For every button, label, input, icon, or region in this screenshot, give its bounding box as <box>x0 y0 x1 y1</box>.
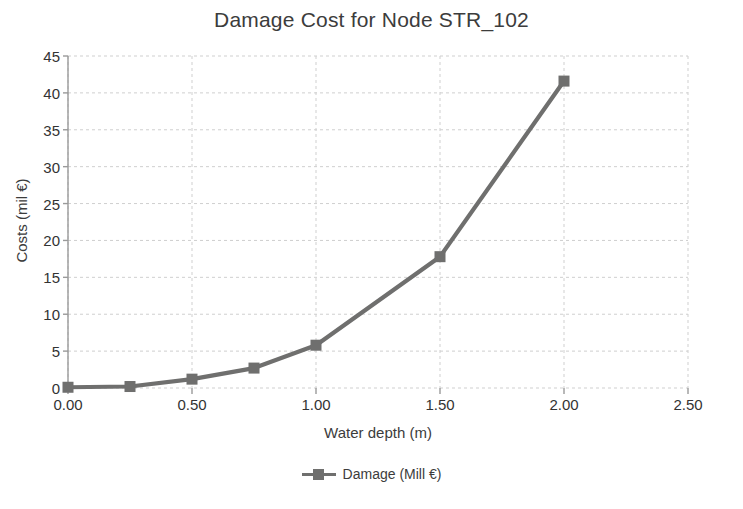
y-axis-tick-label: 15 <box>14 269 60 286</box>
x-axis-tick-label: 1.50 <box>405 396 475 413</box>
y-axis-tick-label: 25 <box>14 195 60 212</box>
data-point-marker <box>63 382 74 393</box>
x-axis-tick-label: 0.00 <box>33 396 103 413</box>
data-point-marker <box>311 340 322 351</box>
y-axis-tick-label: 0 <box>14 380 60 397</box>
y-axis-tick-label: 45 <box>14 48 60 65</box>
chart-container: Damage Cost for Node STR_102 Costs (mil … <box>0 0 743 509</box>
legend-square-marker-icon <box>313 469 324 480</box>
x-axis-tick-label: 0.50 <box>157 396 227 413</box>
x-axis-tick-labels: 0.000.501.001.502.002.50 <box>68 396 688 418</box>
data-point-marker <box>187 374 198 385</box>
y-axis-tick-label: 10 <box>14 306 60 323</box>
y-axis-tick-label: 30 <box>14 158 60 175</box>
data-point-marker <box>125 381 136 392</box>
y-axis-tick-label: 40 <box>14 84 60 101</box>
plot-area <box>68 56 688 388</box>
x-axis-tick-label: 2.50 <box>653 396 723 413</box>
legend-item-label: Damage (Mill €) <box>343 466 442 482</box>
data-point-marker <box>249 363 260 374</box>
x-axis-tick-label: 2.00 <box>529 396 599 413</box>
x-axis-tick-label: 1.00 <box>281 396 351 413</box>
plot-svg <box>68 56 688 388</box>
data-point-marker <box>435 251 446 262</box>
y-axis-tick-label: 20 <box>14 232 60 249</box>
chart-legend: Damage (Mill €) <box>0 466 743 482</box>
x-axis-title: Water depth (m) <box>68 424 688 441</box>
y-axis-tick-label: 5 <box>14 343 60 360</box>
y-axis-tick-label: 35 <box>14 121 60 138</box>
chart-title: Damage Cost for Node STR_102 <box>0 8 743 32</box>
legend-swatch-icon <box>302 468 336 480</box>
y-axis-tick-labels: 051015202530354045 <box>8 56 60 388</box>
data-point-marker <box>559 76 570 87</box>
